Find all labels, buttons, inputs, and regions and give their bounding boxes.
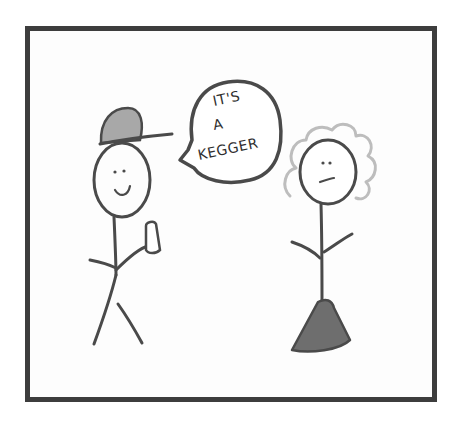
guy-head <box>94 143 150 217</box>
guy-leg-right <box>118 304 142 343</box>
girl-eye-left <box>321 161 324 164</box>
comic-scene: IT'S A KEGGER <box>0 0 459 421</box>
cup-icon <box>146 222 160 253</box>
character-girl <box>285 124 376 351</box>
girl-head <box>300 140 356 204</box>
girl-eye-right <box>328 161 331 164</box>
guy-arm-left <box>90 260 116 268</box>
guy-arm-right <box>116 246 148 270</box>
girl-arm-right <box>324 234 352 252</box>
guy-leg-left <box>94 275 116 344</box>
triangle-dress <box>292 300 350 352</box>
girl-body <box>321 204 322 300</box>
speech-bubble: IT'S A KEGGER <box>180 81 281 182</box>
character-guy <box>90 108 172 344</box>
guy-eye-right <box>122 169 125 172</box>
guy-eye-left <box>113 170 116 173</box>
guy-smile <box>115 186 130 195</box>
girl-arm-left <box>292 242 320 258</box>
